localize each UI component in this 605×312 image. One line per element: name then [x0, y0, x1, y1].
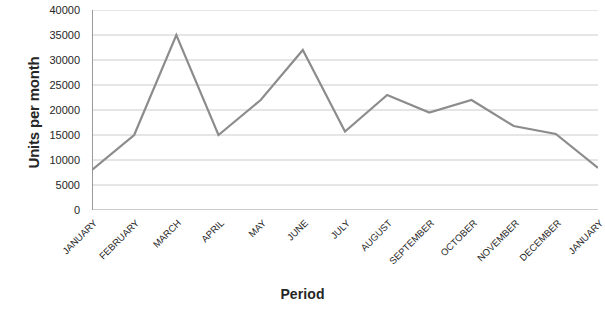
plot-svg — [92, 10, 598, 210]
y-tick-label: 5000 — [56, 180, 80, 191]
x-tick-label-text: MAY — [247, 218, 268, 239]
y-tick-label: 0 — [74, 205, 80, 216]
y-axis-tick-labels: 0500010000150002000025000300003500040000 — [0, 0, 88, 220]
plot-area — [92, 10, 598, 210]
x-tick-label-text: DECEMBER — [518, 218, 563, 263]
y-tick-label: 20000 — [49, 105, 80, 116]
x-axis-title: Period — [0, 286, 605, 302]
gridlines — [92, 10, 598, 210]
y-tick-label: 35000 — [49, 30, 80, 41]
y-tick-label: 30000 — [49, 55, 80, 66]
x-axis-tick-labels: JANUARYFEBRUARYMARCHAPRILMAYJUNEJULYAUGU… — [92, 210, 598, 290]
y-tick-label: 10000 — [49, 155, 80, 166]
y-tick-label: 15000 — [49, 130, 80, 141]
x-tick-label-text: NOVEMBER — [475, 218, 521, 264]
x-tick-label-text: FEBRUARY — [98, 218, 142, 262]
x-tick-label-text: JANUARY — [61, 218, 99, 256]
x-tick-label-text: AUGUST — [359, 218, 394, 253]
x-tick-label-text: JANUARY — [567, 218, 605, 256]
y-tick-label: 40000 — [49, 5, 80, 16]
x-tick-label-text: OCTOBER — [438, 218, 478, 258]
x-tick-label-text: JUNE — [285, 218, 310, 243]
line-chart: Units per month 050001000015000200002500… — [0, 0, 605, 312]
x-tick-label-text: JULY — [329, 218, 352, 241]
y-tick-label: 25000 — [49, 80, 80, 91]
x-tick-label-text: MARCH — [152, 218, 184, 250]
data-series-line — [92, 35, 598, 170]
x-tick-label-text: APRIL — [199, 218, 225, 244]
